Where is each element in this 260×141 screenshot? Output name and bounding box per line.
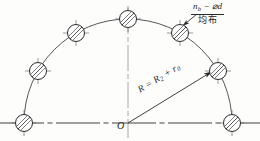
bolt-hole [219,110,245,136]
uniform-distribution-text: 均布 [191,16,224,25]
hole-diameter-var: d [218,1,223,11]
hole-callout-numerator: nb − ⌀d [191,2,224,13]
bolt-hole [205,58,231,84]
origin-label: O [117,121,124,131]
bolt-circle-diagram: nb − ⌀d 均布 R = R2 + r0 O [0,0,260,141]
hole-callout-label: nb − ⌀d 均布 [191,2,224,25]
callout-minus: − [201,1,212,11]
bolt-hole [25,58,51,84]
bolt-hole [115,6,141,32]
bolt-hole [11,110,37,136]
bolt-hole [63,20,89,46]
bolt-hole [167,20,193,46]
radius-dimension-line [128,72,212,124]
